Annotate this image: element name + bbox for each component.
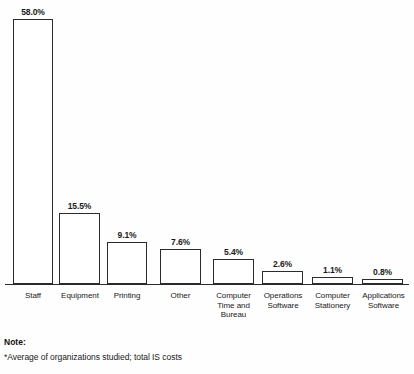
category-label-line: Computer (306, 291, 359, 301)
category-label-line: Equipment (54, 291, 106, 301)
category-label-operations-software: Operations Software (257, 291, 309, 310)
category-label-line: Software (257, 301, 309, 311)
category-label-printing: Printing (102, 291, 152, 301)
category-label-line: Other (155, 291, 206, 301)
bar-rect (13, 19, 53, 284)
bar-value-label: 58.0% (21, 7, 45, 17)
bar-value-label: 9.1% (118, 230, 137, 240)
category-label-equipment: Equipment (54, 291, 106, 301)
category-label-staff: Staff (8, 291, 58, 301)
bar-group: 1.1% (312, 265, 353, 284)
category-label-line: Bureau (207, 310, 260, 320)
bar-value-label: 7.6% (171, 237, 190, 247)
note-footnote-text: *Average of organizations studied; total… (4, 351, 404, 363)
bar-group: 15.5% (59, 201, 100, 284)
bar-rect (160, 249, 201, 284)
bar-group: 0.8% (362, 267, 403, 284)
bar-group: 5.4% (213, 247, 254, 284)
category-label-line: Staff (8, 291, 58, 301)
category-label-computer-time-and-bureau: Computer Time and Bureau (207, 291, 260, 320)
note-heading: Note: (4, 337, 404, 348)
category-label-line: Operations (257, 291, 309, 301)
category-axis-labels: Staff Equipment Printing Other Computer … (0, 291, 414, 331)
bar-chart-figure: 58.0% 15.5% 9.1% 7.6% 5.4% 2.6% 1.1% (0, 0, 414, 374)
bar-value-label: 2.6% (273, 259, 292, 269)
note-block: Note: *Average of organizations studied;… (4, 337, 404, 363)
bar-value-label: 15.5% (68, 201, 92, 211)
bar-group: 58.0% (13, 7, 53, 284)
plot-area: 58.0% 15.5% 9.1% 7.6% 5.4% 2.6% 1.1% (0, 0, 414, 290)
bar-group: 9.1% (107, 230, 147, 284)
bar-group: 2.6% (262, 259, 303, 284)
category-label-line: Computer (207, 291, 260, 301)
category-label-line: Software (356, 301, 411, 311)
bar-value-label: 1.1% (323, 265, 342, 275)
category-label-other: Other (155, 291, 206, 301)
bar-rect (107, 242, 147, 284)
bar-rect (312, 277, 353, 284)
category-label-applications-software: Applications Software (356, 291, 411, 310)
category-label-line: Stationery (306, 301, 359, 311)
bar-rect (262, 271, 303, 284)
bar-value-label: 5.4% (224, 247, 243, 257)
bar-group: 7.6% (160, 237, 201, 284)
category-label-computer-stationery: Computer Stationery (306, 291, 359, 310)
bar-value-label: 0.8% (373, 267, 392, 277)
bar-rect (213, 259, 254, 284)
category-label-line: Applications (356, 291, 411, 301)
x-axis-baseline (5, 284, 409, 285)
category-label-line: Printing (102, 291, 152, 301)
bar-rect (59, 213, 100, 284)
category-label-line: Time and (207, 301, 260, 311)
